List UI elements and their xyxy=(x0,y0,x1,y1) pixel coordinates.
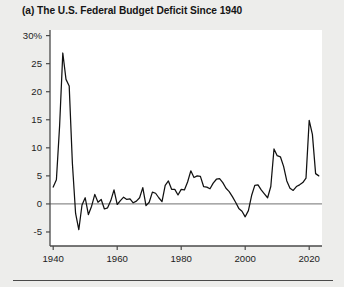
y-axis-tick-label: 30% xyxy=(23,30,43,41)
y-axis-tick-label: 15 xyxy=(31,114,42,125)
x-axis: 19401960198020002020 xyxy=(43,246,320,262)
figure-title: (a) The U.S. Federal Budget Deficit Sinc… xyxy=(22,5,242,16)
y-axis-tick-label: 25 xyxy=(31,58,42,69)
y-axis: 30%2520151050-5 xyxy=(23,30,50,237)
x-axis-tick-label: 2020 xyxy=(299,253,320,262)
x-axis-tick-label: 1940 xyxy=(43,253,64,262)
line-chart-svg: 30%2520151050-5 19401960198020002020 xyxy=(0,22,344,262)
y-axis-tick-label: 5 xyxy=(37,170,42,181)
x-axis-tick-label: 2000 xyxy=(235,253,256,262)
figure-panel: (a) The U.S. Federal Budget Deficit Sinc… xyxy=(0,0,344,287)
x-axis-tick-label: 1980 xyxy=(171,253,192,262)
y-axis-tick-label: 0 xyxy=(37,198,42,209)
footer-divider xyxy=(13,280,333,281)
y-axis-tick-label: -5 xyxy=(33,226,42,237)
chart-plot-area: 30%2520151050-5 19401960198020002020 xyxy=(0,22,344,262)
x-axis-tick-label: 1960 xyxy=(107,253,128,262)
y-axis-tick-label: 10 xyxy=(31,142,42,153)
plot-background xyxy=(50,30,322,246)
y-axis-tick-label: 20 xyxy=(31,86,42,97)
